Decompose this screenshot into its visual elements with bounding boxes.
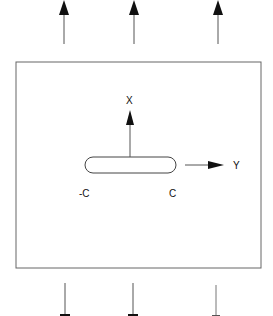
plate	[16, 62, 261, 268]
x-axis-arrow	[126, 110, 134, 157]
y-axis-arrow	[185, 161, 224, 169]
bottom-arrow	[128, 283, 138, 316]
top-arrow	[129, 0, 139, 44]
crack-tip-right-label: C	[169, 188, 176, 199]
top-tension-arrows	[59, 0, 223, 44]
top-arrow	[213, 0, 223, 44]
bottom-arrow	[212, 285, 220, 316]
crack-slot	[85, 157, 176, 173]
bottom-arrow	[60, 283, 70, 316]
y-axis-label: Y	[233, 160, 240, 171]
top-arrow	[59, 0, 69, 44]
bottom-tension-arrows	[60, 283, 220, 316]
crack-tip-left-label: -C	[79, 188, 90, 199]
x-axis-label: X	[126, 95, 133, 106]
crack-plate-diagram: X Y -C C	[0, 0, 273, 316]
